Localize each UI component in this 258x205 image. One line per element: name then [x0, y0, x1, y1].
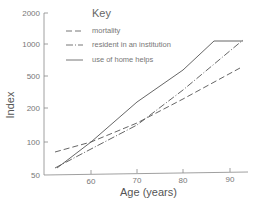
y-tick-label: 2000 [22, 9, 40, 18]
legend-title: Key [92, 7, 111, 19]
legend-label: mortality [92, 26, 121, 35]
y-tick-label: 100 [27, 138, 41, 147]
x-tick-label: 90 [226, 175, 235, 184]
x-tick-label: 60 [87, 177, 96, 186]
legend-label: use of home helps [92, 55, 154, 64]
series-mortality [55, 68, 240, 152]
x-axis-label: Age (years) [120, 186, 177, 198]
y-tick-label: 1000 [22, 40, 40, 49]
legend-label: resident in an institution [92, 40, 171, 49]
y-tick-label: 200 [27, 104, 41, 113]
x-tick-label: 80 [179, 176, 188, 185]
chart: 2000 1000 500 200 100 50 60 70 80 90 Age… [0, 0, 258, 205]
y-tick-label: 50 [31, 171, 40, 180]
x-ticks: 60 70 80 90 [87, 168, 235, 186]
y-axis-label: Index [4, 91, 16, 118]
legend: Key mortality resident in an institution… [66, 7, 171, 64]
x-axis [44, 172, 248, 175]
y-tick-label: 500 [27, 72, 41, 81]
x-tick-label: 70 [133, 176, 142, 185]
